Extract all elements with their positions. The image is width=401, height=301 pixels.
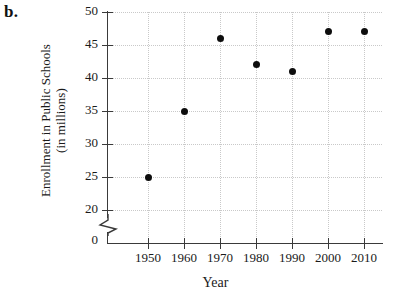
grid-line-vertical (256, 12, 257, 243)
x-tick-mark (220, 238, 221, 249)
data-point (289, 68, 296, 75)
x-tick-mark (256, 238, 257, 249)
grid-line-vertical (148, 12, 149, 243)
data-point (361, 28, 368, 35)
grid-line-vertical (184, 12, 185, 243)
grid-line-horizontal (108, 12, 382, 13)
x-tick-mark (148, 238, 149, 249)
x-tick-label-2010: 2010 (342, 250, 386, 266)
y-tick-label-45: 45 (64, 36, 98, 52)
y-tick-mark (102, 45, 113, 46)
y-tick-mark (102, 12, 113, 13)
data-point (253, 61, 260, 68)
y-tick-mark (102, 177, 113, 178)
data-point (145, 174, 152, 181)
x-tick-mark (328, 238, 329, 249)
grid-line-vertical (292, 12, 293, 243)
chart-figure: b. Enrollment in Public Schools (in mill… (0, 0, 401, 301)
y-tick-label-40: 40 (64, 69, 98, 85)
x-tick-mark (292, 238, 293, 249)
grid-line-vertical (364, 12, 365, 243)
y-tick-label-30: 30 (64, 135, 98, 151)
grid-line-vertical (328, 12, 329, 243)
x-tick-mark (364, 238, 365, 249)
y-axis-line (107, 11, 108, 218)
x-axis-title: Year (0, 275, 401, 291)
y-tick-mark (102, 210, 113, 211)
axis-break-icon (97, 214, 119, 236)
data-point (217, 35, 224, 42)
grid-line-horizontal (108, 45, 382, 46)
grid-line-vertical (220, 12, 221, 243)
grid-line-horizontal (108, 210, 382, 211)
y-tick-label-0: 0 (64, 232, 98, 248)
data-point (181, 108, 188, 115)
x-axis-title-text: Year (203, 275, 229, 290)
y-tick-label-20: 20 (64, 201, 98, 217)
y-tick-mark (102, 111, 113, 112)
y-tick-mark (102, 144, 113, 145)
y-tick-mark (102, 78, 113, 79)
grid-line-horizontal (108, 111, 382, 112)
grid-line-horizontal (108, 144, 382, 145)
part-label: b. (4, 2, 18, 22)
y-axis-title-line1: Enrollment in Public Schools (39, 6, 54, 236)
grid-line-horizontal (108, 78, 382, 79)
x-tick-mark (184, 238, 185, 249)
y-tick-label-25: 25 (64, 168, 98, 184)
y-tick-label-35: 35 (64, 102, 98, 118)
y-tick-label-50: 50 (64, 3, 98, 19)
data-point (325, 28, 332, 35)
